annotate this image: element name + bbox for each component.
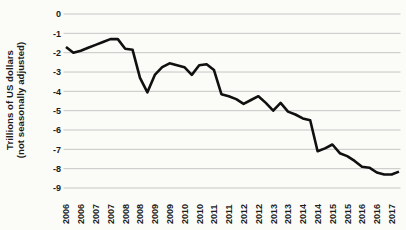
y-tick-label: -6: [53, 125, 61, 135]
x-tick-label: 2010: [195, 204, 205, 224]
x-tick-label: 2015: [343, 204, 353, 224]
x-tick-label: 2006: [76, 204, 86, 224]
x-tick-label: 2013: [283, 204, 293, 224]
y-tick-label: -7: [53, 145, 61, 155]
x-tick-label: 2011: [224, 204, 234, 224]
y-tick-label: -9: [53, 183, 61, 193]
y-tick-label: -5: [53, 106, 61, 116]
x-tick-label: 2008: [135, 204, 145, 224]
x-tick-label: 2012: [254, 204, 264, 224]
x-tick-label: 2007: [106, 204, 116, 224]
x-tick-label: 2014: [313, 204, 323, 224]
x-tick-label: 2017: [387, 204, 397, 224]
y-tick-label: -2: [53, 48, 61, 58]
chart-svg: 0-1-2-3-4-5-6-7-8-9200620062007200720082…: [0, 0, 406, 230]
x-tick-label: 2010: [180, 204, 190, 224]
y-axis-title-line2: (not seasonally adjusted): [15, 42, 26, 159]
x-tick-label: 2009: [150, 204, 160, 224]
x-tick-label: 2014: [298, 204, 308, 224]
data-series-line: [66, 39, 399, 174]
y-tick-label: -1: [53, 29, 61, 39]
y-tick-label: -8: [53, 164, 61, 174]
x-tick-label: 2012: [239, 204, 249, 224]
y-axis-title-text: Trillions of US dollars (not seasonally …: [4, 42, 26, 159]
chart-page: 0-1-2-3-4-5-6-7-8-9200620062007200720082…: [0, 0, 406, 230]
x-tick-label: 2016: [372, 204, 382, 224]
x-tick-label: 2016: [357, 204, 367, 224]
y-tick-label: 0: [56, 9, 61, 19]
x-tick-label: 2008: [121, 204, 131, 224]
x-tick-label: 2009: [165, 204, 175, 224]
x-tick-label: 2013: [269, 204, 279, 224]
y-tick-label: -4: [53, 87, 61, 97]
x-tick-label: 2007: [91, 204, 101, 224]
line-chart-figure: 0-1-2-3-4-5-6-7-8-9200620062007200720082…: [0, 0, 406, 230]
x-tick-label: 2015: [328, 204, 338, 224]
y-tick-label: -3: [53, 67, 61, 77]
x-tick-label: 2011: [209, 204, 219, 224]
x-tick-label: 2006: [61, 204, 71, 224]
y-axis-title-line1: Trillions of US dollars: [4, 42, 15, 159]
